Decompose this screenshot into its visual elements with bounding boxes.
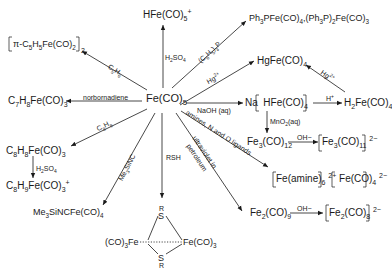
reagent-h-plus: H+ xyxy=(326,94,334,104)
product-ph3p: Ph3PFe(CO)4,(Ph3P)2Fe(CO)3 xyxy=(249,13,369,23)
product-c8h9: C8H9Fe(CO)3+ xyxy=(6,181,70,191)
product-fe3co11: Fe3(CO)11 2− xyxy=(322,137,377,147)
reagent-naoh: NaOH (aq) xyxy=(197,106,231,116)
product-amine-salt: Fe(amine)6 2+ Fe(CO)4 2− xyxy=(276,174,387,184)
product-nahfeco4: Na HFe(CO)4 xyxy=(245,98,308,108)
reagent-norbornadiene: norbornadiene xyxy=(83,93,128,103)
reagent-mno2: MnO2(aq) xyxy=(270,117,300,127)
reagent-oh-fe2: OH− xyxy=(297,204,312,214)
brackets xyxy=(9,37,369,221)
reagent-h2so4-top: H2SO4 xyxy=(165,53,186,63)
product-me3sinc: Me3SiNCFe(CO)4 xyxy=(33,207,104,217)
reagent-h2so4-left: H2SO4 xyxy=(36,164,57,174)
center-compound: Fe(CO)5 xyxy=(146,93,187,103)
product-fe2co9: Fe2(CO)9 xyxy=(250,208,291,218)
product-cp-dimer-subscript: 2 xyxy=(81,46,85,56)
product-c7h8: C7H8Fe(CO)3 xyxy=(8,96,68,106)
reagent-rsh: RSH xyxy=(166,153,181,163)
thiolate-s-top: S xyxy=(158,211,164,221)
product-hgfeco4: HgFe(CO)4 xyxy=(257,56,307,66)
thiolate-right-fe: Fe(CO)3 xyxy=(183,237,217,247)
thiolate-r-bottom: R xyxy=(159,261,164,268)
product-h2feco4: H2Fe(CO)4 xyxy=(344,98,392,108)
product-c8h8: C8H8Fe(CO)3 xyxy=(6,146,66,156)
reagent-oh-fe3: OH− xyxy=(297,133,312,143)
product-hfeco5: HFe(CO)5+ xyxy=(143,10,192,20)
product-fe2co8: Fe2(CO)8 2− xyxy=(329,208,381,218)
thiolate-bonds xyxy=(140,216,183,254)
arrow-to-hgfeco4 xyxy=(180,61,254,105)
product-fe3co12: Fe3(CO)12 xyxy=(247,137,292,147)
thiolate-left-fe: (CO)3Fe xyxy=(105,237,139,247)
product-cp-dimer: π-C5H5Fe(CO)2 xyxy=(13,39,76,49)
